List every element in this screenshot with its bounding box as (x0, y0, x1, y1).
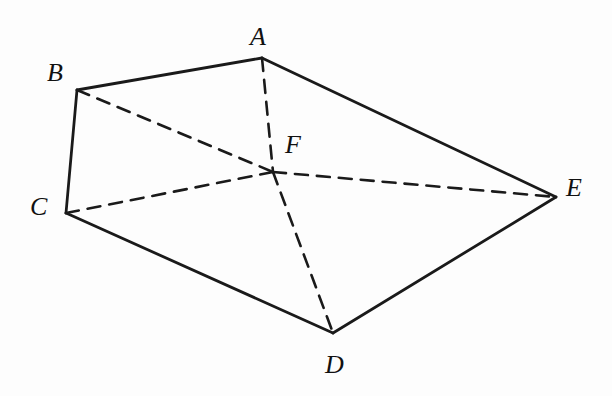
label-E: E (566, 175, 582, 201)
solid-segment-CD (66, 213, 333, 333)
geometry-diagram: A B C D E F (0, 0, 612, 396)
solid-segment-AB (77, 58, 262, 90)
dashed-segment-CF (66, 172, 273, 213)
label-F: F (285, 132, 301, 158)
label-C: C (30, 194, 47, 220)
label-A: A (250, 24, 266, 50)
dashed-segment-BF (77, 90, 273, 172)
solid-segment-BC (66, 90, 77, 213)
label-D: D (325, 352, 344, 378)
solid-segment-DE (333, 197, 556, 333)
dashed-segment-AF (262, 58, 273, 172)
figure-canvas (0, 0, 612, 396)
label-B: B (47, 60, 63, 86)
